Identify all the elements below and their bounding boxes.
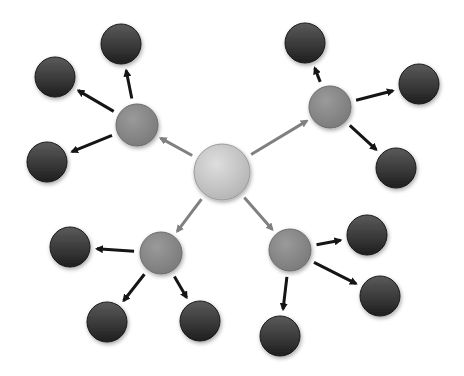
node-leaf-br-2 <box>360 276 400 316</box>
arrow-hub-to-mid-tr <box>251 121 307 155</box>
node-leaf-tr-2 <box>399 64 439 104</box>
arrow-mid-tr-to-leaf-tr-2 <box>356 91 393 100</box>
arrow-mid-tl-to-leaf-tl-2 <box>78 91 113 112</box>
node-leaf-tl-3 <box>27 142 67 182</box>
node-leaf-bl-1 <box>50 227 90 267</box>
arrow-hub-to-mid-br <box>244 198 272 230</box>
node-leaf-tr-3 <box>376 148 416 188</box>
node-leaf-br-3 <box>260 316 300 356</box>
node-mid-tl <box>116 104 158 146</box>
arrow-mid-tr-to-leaf-tr-3 <box>350 125 376 149</box>
node-leaf-bl-3 <box>180 301 220 341</box>
arrow-mid-bl-to-leaf-bl-1 <box>97 249 134 251</box>
arrow-mid-br-to-leaf-br-3 <box>283 277 287 309</box>
arrow-hub-to-mid-tl <box>161 138 193 155</box>
arrow-mid-br-to-leaf-br-1 <box>317 240 341 245</box>
arrow-mid-tl-to-leaf-tl-1 <box>126 71 132 99</box>
nodes-layer <box>27 23 439 356</box>
arrow-mid-tr-to-leaf-tr-1 <box>315 68 320 82</box>
arrow-mid-bl-to-leaf-bl-2 <box>124 274 145 300</box>
arrow-mid-tl-to-leaf-tl-3 <box>72 135 112 151</box>
node-leaf-tl-1 <box>101 24 141 64</box>
node-mid-bl <box>140 232 182 274</box>
node-mid-br <box>269 229 311 271</box>
node-hub <box>194 144 250 200</box>
node-mid-tr <box>309 86 351 128</box>
arrow-mid-bl-to-leaf-bl-3 <box>174 276 186 297</box>
arrow-hub-to-mid-bl <box>177 199 201 231</box>
node-leaf-br-1 <box>347 215 387 255</box>
network-diagram <box>0 0 464 376</box>
node-leaf-bl-2 <box>87 302 127 342</box>
node-leaf-tr-1 <box>285 23 325 63</box>
arrow-mid-br-to-leaf-br-2 <box>314 262 356 283</box>
node-leaf-tl-2 <box>35 57 75 97</box>
